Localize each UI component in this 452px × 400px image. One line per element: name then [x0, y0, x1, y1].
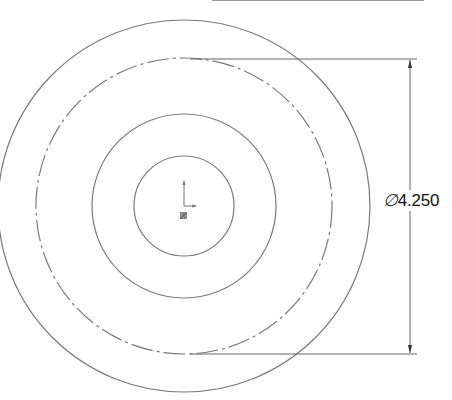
diameter-dimension-label[interactable]: ∅4.250: [382, 190, 440, 211]
arrow-bottom-icon: [408, 345, 412, 353]
diameter-symbol: ∅: [383, 191, 398, 210]
diameter-value: 4.250: [398, 191, 440, 210]
arrow-top-icon: [408, 60, 412, 68]
origin-axes-icon: [183, 180, 198, 208]
origin-point-icon[interactable]: [180, 212, 187, 219]
